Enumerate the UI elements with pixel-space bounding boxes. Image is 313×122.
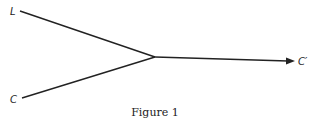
node-label-C: C — [10, 94, 17, 105]
figure-diagram: L C C′ Figure 1 — [0, 0, 313, 122]
node-label-L: L — [10, 6, 16, 17]
arrowhead-icon — [286, 58, 295, 65]
node-label-Cprime: C′ — [298, 56, 308, 67]
figure-caption: Figure 1 — [131, 106, 179, 119]
edge-C-to-junction — [22, 57, 155, 98]
edge-junction-to-Cprime — [155, 57, 288, 61]
edge-L-to-junction — [20, 11, 155, 57]
